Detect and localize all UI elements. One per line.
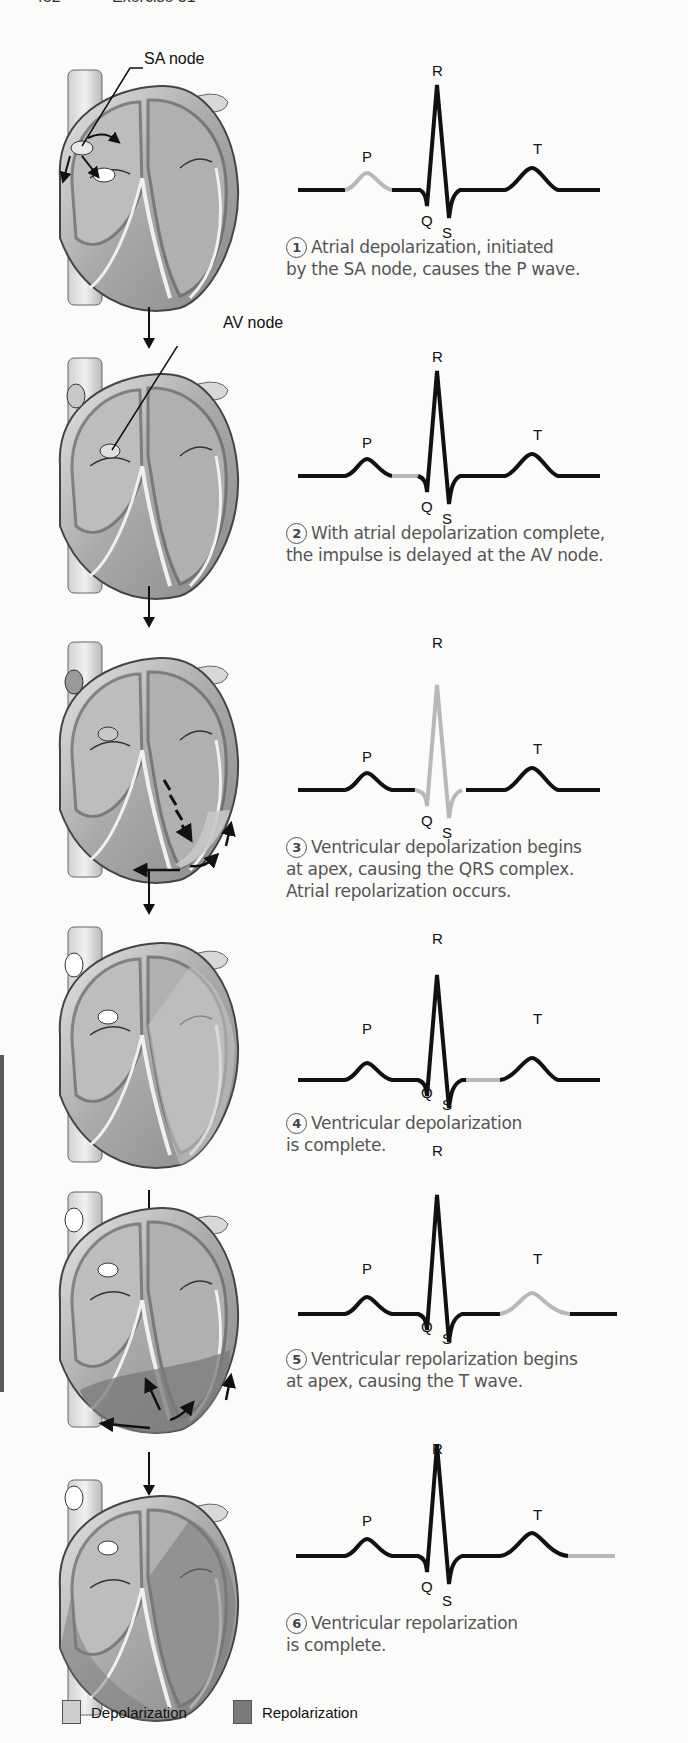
label-q: Q — [421, 812, 433, 829]
caption-line: is complete. — [286, 1635, 386, 1655]
label-t: T — [533, 426, 542, 443]
label-p: P — [362, 1260, 372, 1277]
step-caption-6: 6Ventricular repolarization is complete. — [286, 1612, 686, 1656]
step-number-6: 6 — [286, 1613, 307, 1634]
caption-line: the impulse is delayed at the AV node. — [286, 545, 603, 565]
step-number-3: 3 — [286, 837, 307, 858]
label-r: R — [432, 930, 443, 947]
caption-line: is complete. — [286, 1135, 386, 1155]
caption-line: at apex, causing the T wave. — [286, 1371, 523, 1391]
step-caption-2: 2With atrial depolarization complete, th… — [286, 522, 686, 566]
caption-line: at apex, causing the QRS complex. — [286, 859, 574, 879]
legend-label: Depolarization — [91, 1704, 187, 1721]
ecg-trace-6 — [0, 1460, 688, 1710]
label-r: R — [432, 62, 443, 79]
step-number-5: 5 — [286, 1349, 307, 1370]
label-s: S — [442, 1096, 452, 1113]
label-p: P — [362, 748, 372, 765]
label-p: P — [362, 434, 372, 451]
label-t: T — [533, 140, 542, 157]
repolarization-swatch — [233, 1700, 252, 1724]
caption-line: Ventricular repolarization begins — [311, 1349, 578, 1369]
legend-label: Repolarization — [262, 1704, 358, 1721]
legend: Depolarization Repolarization — [62, 1698, 404, 1726]
caption-line: With atrial depolarization complete, — [311, 523, 605, 543]
label-q: Q — [421, 1318, 433, 1335]
step-number-4: 4 — [286, 1113, 307, 1134]
label-q: Q — [421, 212, 433, 229]
step-caption-3: 3Ventricular depolarization begins at ap… — [286, 836, 686, 902]
page-header: 452 Exercise 31 — [0, 0, 688, 4]
step-caption-5: 5Ventricular repolarization begins at ap… — [286, 1348, 686, 1392]
caption-line: Ventricular repolarization — [311, 1613, 518, 1633]
ecg-trace-2 — [0, 306, 688, 556]
step-caption-4: 4Ventricular depolarization is complete. — [286, 1112, 686, 1156]
label-t: T — [533, 1506, 542, 1523]
label-s: S — [442, 1592, 452, 1609]
legend-item-depolarization: Depolarization — [62, 1700, 187, 1724]
legend-item-repolarization: Repolarization — [233, 1700, 358, 1724]
label-t: T — [533, 1250, 542, 1267]
label-q: Q — [421, 1578, 433, 1595]
ecg-trace-1 — [0, 20, 688, 270]
depolarization-swatch — [62, 1700, 81, 1724]
label-t: T — [533, 740, 542, 757]
step-number-2: 2 — [286, 523, 307, 544]
label-s: S — [442, 1330, 452, 1347]
label-p: P — [362, 1020, 372, 1037]
step-number-1: 1 — [286, 237, 307, 258]
label-p: P — [362, 1512, 372, 1529]
ecg-trace-3 — [0, 600, 688, 850]
caption-line: Ventricular depolarization — [311, 1113, 522, 1133]
page-number: 452 — [34, 0, 61, 4]
label-r: R — [432, 1142, 443, 1159]
label-q: Q — [421, 1084, 433, 1101]
ecg-trace-5 — [0, 1180, 688, 1430]
caption-line: Ventricular depolarization begins — [311, 837, 582, 857]
label-r: R — [432, 348, 443, 365]
label-q: Q — [421, 498, 433, 515]
caption-line: by the SA node, causes the P wave. — [286, 259, 580, 279]
caption-line: Atrial depolarization, initiated — [311, 237, 554, 257]
section-title: Exercise 31 — [112, 0, 196, 4]
label-t: T — [533, 1010, 542, 1027]
caption-line: Atrial repolarization occurs. — [286, 881, 511, 901]
label-r: R — [432, 634, 443, 651]
step-caption-1: 1Atrial depolarization, initiated by the… — [286, 236, 686, 280]
label-p: P — [362, 148, 372, 165]
